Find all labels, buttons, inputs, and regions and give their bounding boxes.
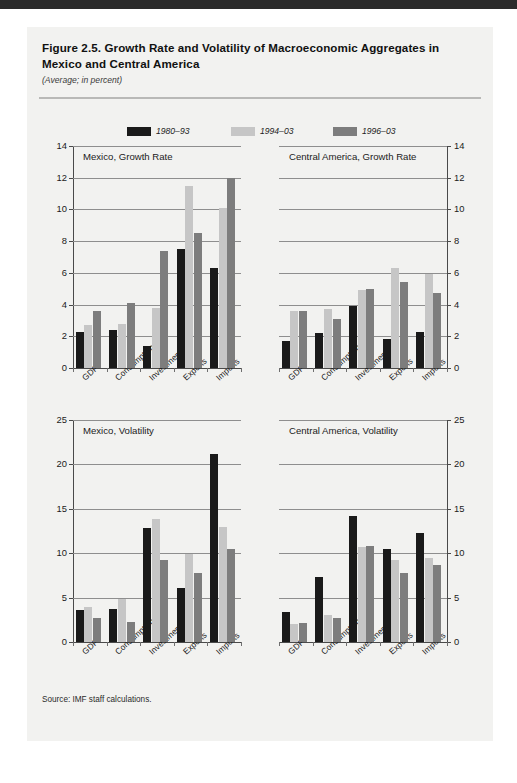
y-axis-tick-label: 5 xyxy=(454,592,459,603)
bar xyxy=(433,565,441,642)
bar xyxy=(299,623,307,642)
bar xyxy=(290,624,298,642)
page-canvas: Figure 2.5. Growth Rate and Volatility o… xyxy=(0,0,517,783)
y-axis-line xyxy=(447,420,448,642)
y-axis-tick-label: 15 xyxy=(454,503,464,514)
x-axis-tickmark xyxy=(447,642,448,646)
bar xyxy=(400,573,408,642)
bar xyxy=(366,546,374,642)
bar xyxy=(315,577,323,642)
bar xyxy=(416,533,424,642)
y-axis-tick-label: 25 xyxy=(454,414,464,425)
x-axis-tickmark xyxy=(346,642,347,646)
bar xyxy=(324,615,332,642)
figure-card-inner: Figure 2.5. Growth Rate and Volatility o… xyxy=(27,27,493,741)
page-top-edge xyxy=(0,0,517,9)
bar xyxy=(349,516,357,642)
bar xyxy=(391,560,399,642)
gridline xyxy=(279,420,447,421)
plot-area xyxy=(279,420,447,642)
x-axis-tickmark xyxy=(380,642,381,646)
bar xyxy=(383,549,391,642)
x-axis-tickmark xyxy=(279,642,280,646)
y-axis-tick-label: 10 xyxy=(454,547,464,558)
y-axis-tick-label: 20 xyxy=(454,458,464,469)
x-axis-tickmark xyxy=(413,642,414,646)
gridline xyxy=(279,464,447,465)
bar xyxy=(425,558,433,642)
chart-panel: Central America, Volatility0510152025GDP… xyxy=(27,27,493,741)
bar xyxy=(333,618,341,642)
figure-card: Figure 2.5. Growth Rate and Volatility o… xyxy=(27,27,493,741)
x-axis-tickmark xyxy=(313,642,314,646)
gridline xyxy=(279,509,447,510)
source-note: Source: IMF staff calculations. xyxy=(42,695,152,704)
y-axis-tick-label: 0 xyxy=(454,636,459,647)
bar xyxy=(282,612,290,642)
bar xyxy=(358,547,366,642)
